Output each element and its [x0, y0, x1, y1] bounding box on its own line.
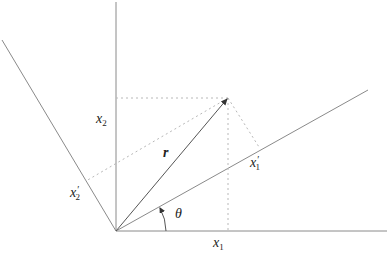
position-vector-r — [116, 99, 227, 231]
diagram-svg — [0, 0, 387, 253]
label-x2-prime: x′2 — [70, 186, 80, 200]
label-theta: θ — [175, 207, 182, 221]
x1-prime-axis — [116, 90, 368, 231]
x2-prime-axis — [2, 40, 116, 231]
projection-to-x1-prime — [228, 98, 259, 147]
label-x1-prime: x′1 — [250, 156, 260, 170]
label-x1: x1 — [213, 236, 224, 250]
label-r: r — [163, 146, 168, 160]
label-x1-sub: 1 — [219, 242, 224, 252]
label-x1-prime-sub: 1 — [255, 162, 260, 172]
label-x2: x2 — [96, 112, 107, 126]
label-x2-sub: 2 — [102, 118, 107, 128]
projection-to-x2-prime — [86, 98, 228, 181]
theta-arc — [160, 208, 166, 231]
label-x2-prime-sub: 2 — [75, 192, 80, 202]
diagram-canvas: x2 x1 x′1 x′2 r θ — [0, 0, 387, 253]
